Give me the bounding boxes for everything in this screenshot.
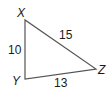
- side-label-yz: 13: [54, 76, 68, 90]
- triangle-diagram: X Y Z 10 15 13: [0, 0, 110, 91]
- side-label-xy: 10: [8, 43, 22, 57]
- vertex-label-z: Z: [97, 63, 106, 77]
- side-label-xz: 15: [59, 28, 73, 42]
- vertex-label-x: X: [16, 6, 26, 20]
- vertex-label-y: Y: [12, 74, 21, 88]
